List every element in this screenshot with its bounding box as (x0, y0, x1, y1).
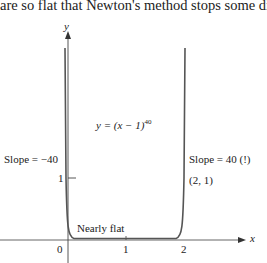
x-tick-label-1: 1 (123, 243, 129, 255)
y-axis-arrow-icon (65, 31, 71, 39)
y-axis-label: y (64, 20, 69, 32)
equation-label: y = (x − 1)40 (96, 118, 151, 131)
plot (0, 0, 267, 263)
x-tick-label-0: 0 (57, 243, 63, 255)
x-tick-label-2: 2 (181, 243, 187, 255)
equation-lhs: y = (x − 1) (96, 119, 144, 131)
point-label: (2, 1) (189, 174, 213, 186)
curve (65, 48, 185, 239)
right-slope-label: Slope = 40 (!) (189, 153, 251, 165)
x-axis-label: x (250, 232, 255, 244)
flat-label: Nearly flat (77, 222, 124, 234)
y-tick-label-1: 1 (58, 172, 64, 184)
left-slope-label: Slope = −40 (4, 153, 58, 165)
equation-exponent: 40 (144, 118, 151, 126)
x-axis-arrow-icon (238, 237, 246, 243)
